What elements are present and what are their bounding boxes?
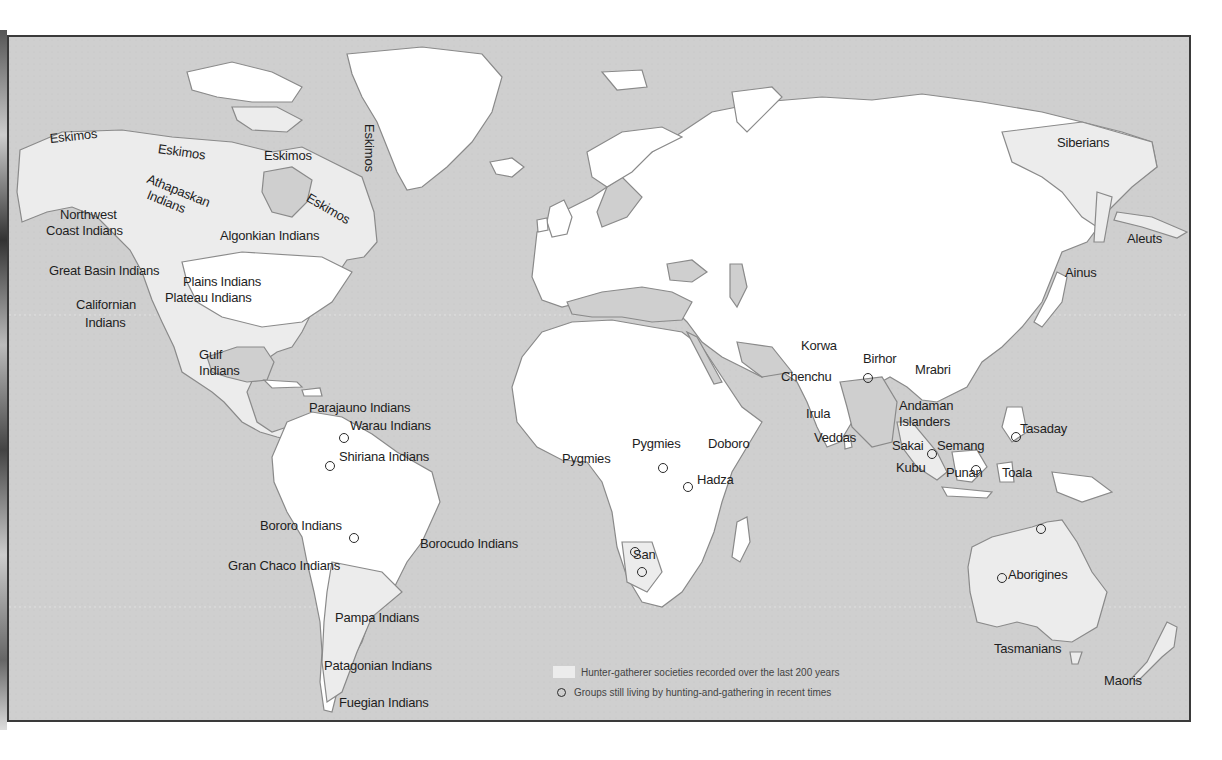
map-label: Aleuts — [1127, 232, 1162, 246]
map-label: Ainus — [1065, 266, 1097, 280]
legend-region-row: Hunter-gatherer societies recorded over … — [553, 662, 839, 682]
map-label: Parajauno Indians — [309, 401, 410, 415]
map-label: Veddas — [814, 431, 856, 445]
map-label: Tasaday — [1020, 422, 1067, 436]
map-label: Pygmies — [632, 437, 680, 451]
map-label: Coast Indians — [46, 224, 123, 238]
legend-marker-row: Groups still living by hunting-and-gathe… — [553, 682, 839, 702]
group-marker-icon — [349, 533, 359, 543]
map-label: Toala — [1002, 466, 1032, 480]
group-marker-icon — [997, 573, 1007, 583]
map-label: Gulf — [199, 348, 222, 362]
map-label: Californian — [76, 298, 136, 312]
map-label: Patagonian Indians — [324, 659, 432, 673]
group-marker-icon — [927, 449, 937, 459]
group-marker-icon — [658, 463, 668, 473]
map-label: Hadza — [697, 473, 734, 487]
group-marker-icon — [683, 482, 693, 492]
map-label: Islanders — [899, 415, 950, 429]
map-label: Bororo Indians — [260, 519, 342, 533]
map-label: Northwest — [60, 208, 117, 222]
map-label: Doboro — [708, 437, 749, 451]
group-marker-icon — [1036, 524, 1046, 534]
group-marker-icon — [325, 461, 335, 471]
map-label: Fuegian Indians — [339, 696, 429, 710]
map-label: Great Basin Indians — [49, 264, 159, 278]
group-marker-icon — [637, 567, 647, 577]
map-label: Semang — [937, 439, 984, 453]
legend-marker-label: Groups still living by hunting-and-gathe… — [574, 687, 831, 698]
group-marker-icon — [863, 373, 873, 383]
group-marker-icon — [630, 547, 640, 557]
map-legend: Hunter-gatherer societies recorded over … — [553, 662, 839, 702]
map-label: Kubu — [896, 461, 926, 475]
map-label: Plateau Indians — [165, 291, 252, 305]
map-label: Algonkian Indians — [220, 229, 319, 243]
map-label: Eskimos — [362, 124, 376, 172]
map-label: Borocudo Indians — [420, 537, 518, 551]
map-label: Irula — [806, 407, 830, 421]
map-label: Birhor — [863, 352, 896, 366]
map-landmass-svg — [9, 37, 1191, 722]
map-label: Maoris — [1104, 674, 1142, 688]
map-label: Korwa — [801, 339, 837, 353]
map-label: Eskimos — [264, 149, 312, 163]
map-label: Plains Indians — [183, 275, 261, 289]
map-label: Tasmanians — [994, 642, 1061, 656]
map-label: Gran Chaco Indians — [228, 559, 340, 573]
map-label: Indians — [199, 364, 240, 378]
map-label: Pygmies — [562, 452, 610, 466]
map-label: Mrabri — [915, 363, 951, 377]
legend-region-label: Hunter-gatherer societies recorded over … — [581, 667, 839, 678]
map-label: Chenchu — [781, 370, 832, 384]
group-marker-icon — [339, 433, 349, 443]
legend-region-swatch — [553, 666, 575, 678]
legend-circle-icon — [557, 688, 566, 697]
map-label: Warau Indians — [350, 419, 431, 433]
map-label: Aborigines — [1008, 568, 1067, 582]
map-label: Pampa Indians — [335, 611, 419, 625]
map-label: Sakai — [892, 439, 924, 453]
map-label: Shiriana Indians — [339, 450, 429, 464]
map-label: Siberians — [1057, 136, 1109, 150]
map-label: Andaman — [899, 399, 953, 413]
world-map: EskimosEskimosEskimosEskimosEskimosAthap… — [7, 35, 1191, 722]
map-label: Indians — [85, 316, 126, 330]
group-marker-icon — [971, 465, 981, 475]
group-marker-icon — [1011, 432, 1021, 442]
page-edge-strip — [0, 30, 7, 730]
